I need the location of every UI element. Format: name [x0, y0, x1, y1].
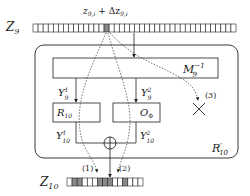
ophi-label: OΦ	[140, 107, 153, 119]
z9-register	[33, 24, 236, 32]
register-cell	[67, 178, 72, 186]
register-cell	[160, 24, 165, 32]
register-cell	[99, 24, 104, 32]
register-cell	[43, 24, 48, 32]
register-cell	[58, 24, 63, 32]
register-cell	[231, 24, 236, 32]
z9-delta-label: z9,i + Δz9,i	[82, 6, 128, 17]
y10-2-line	[116, 122, 136, 143]
register-cell	[180, 24, 185, 32]
register-cell	[128, 178, 133, 186]
register-cell	[170, 24, 175, 32]
register-cell	[113, 178, 118, 186]
register-cell	[124, 24, 129, 32]
register-cell-highlighted	[108, 178, 113, 186]
register-cell	[63, 24, 68, 32]
register-cell	[206, 24, 211, 32]
register-cell	[74, 24, 79, 32]
register-cell	[53, 24, 58, 32]
register-cell	[69, 24, 74, 32]
y9-2-label: Y29	[141, 86, 152, 101]
z9-label: Z9	[5, 20, 19, 36]
path-2-label: (2)	[119, 164, 130, 173]
register-cell	[118, 178, 123, 186]
register-cell	[94, 24, 99, 32]
register-cell	[109, 24, 114, 32]
register-cell	[92, 178, 97, 186]
r10-label: R10	[56, 107, 72, 119]
path-2	[108, 33, 130, 172]
r10-prime-label: R′10	[211, 141, 229, 157]
register-cell	[226, 24, 231, 32]
blocked-cross-icon	[193, 103, 205, 115]
register-cell	[185, 24, 190, 32]
register-cell	[129, 24, 134, 32]
register-cell	[133, 178, 138, 186]
register-cell	[114, 24, 119, 32]
register-cell	[79, 24, 84, 32]
path-1	[79, 33, 106, 172]
register-cell	[221, 24, 226, 32]
register-cell	[211, 24, 216, 32]
register-cell-highlighted	[104, 24, 109, 32]
y9-1-label: Y19	[58, 86, 68, 101]
register-cell	[89, 24, 94, 32]
register-cell	[216, 24, 221, 32]
xor-icon	[104, 137, 116, 149]
register-cell	[82, 178, 87, 186]
register-cell	[87, 178, 92, 186]
z10-label: Z10	[39, 175, 59, 191]
register-cell	[135, 24, 140, 32]
mixing-label: M−19	[182, 62, 205, 79]
register-cell	[175, 24, 180, 32]
path-3-label: (3)	[205, 91, 216, 100]
register-cell-highlighted	[102, 178, 107, 186]
diagram: Z9 z9,i + Δz9,i R′10 M−19 Y19 Y29 R10 OΦ…	[0, 0, 250, 196]
register-cell	[165, 24, 170, 32]
register-cell	[145, 24, 150, 32]
register-cell-highlighted	[123, 178, 128, 186]
register-cell	[200, 24, 205, 32]
register-cell	[195, 24, 200, 32]
register-cell	[190, 24, 195, 32]
register-cell	[48, 24, 53, 32]
register-cell-highlighted	[97, 178, 102, 186]
register-cell	[138, 178, 143, 186]
y10-2-label: Y210	[140, 129, 154, 144]
register-cell	[150, 24, 155, 32]
register-cell	[33, 24, 38, 32]
register-cell-highlighted	[72, 178, 77, 186]
y10-1-line	[76, 122, 104, 143]
register-cell	[155, 24, 160, 32]
z10-register	[67, 178, 143, 186]
register-cell	[84, 24, 89, 32]
path-1-label: (1)	[82, 164, 93, 173]
register-cell	[140, 24, 145, 32]
y10-1-label: Y110	[56, 129, 70, 144]
register-cell	[38, 24, 43, 32]
register-cell	[119, 24, 124, 32]
register-cell-highlighted	[77, 178, 82, 186]
